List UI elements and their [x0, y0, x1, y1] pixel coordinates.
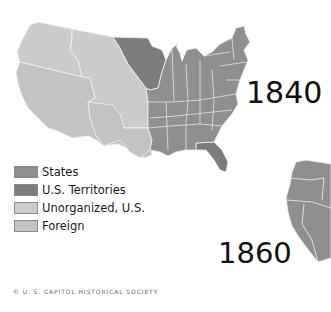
legend-item-foreign: Foreign [14, 217, 145, 235]
legend-label: Unorganized, U.S. [42, 201, 145, 215]
map-1840 [16, 22, 250, 172]
swatch-territories [14, 184, 38, 196]
year-label-1840: 1840 [246, 75, 322, 110]
swatch-foreign [14, 220, 38, 232]
legend-item-unorganized: Unorganized, U.S. [14, 199, 145, 217]
year-label-1860: 1860 [218, 236, 292, 270]
region-west-states-1860 [286, 160, 331, 262]
swatch-states [14, 166, 38, 178]
swatch-unorganized [14, 202, 38, 214]
map-1860 [286, 160, 331, 262]
legend-label: Foreign [42, 219, 85, 233]
region-states [146, 26, 250, 156]
map-legend: States U.S. Territories Unorganized, U.S… [14, 163, 145, 235]
legend-item-states: States [14, 163, 145, 181]
legend-label: States [42, 165, 78, 179]
copyright-notice: © U. S. CAPITOL HISTORICAL SOCIETY [13, 288, 158, 295]
region-florida-territory [196, 142, 228, 172]
legend-item-territories: U.S. Territories [14, 181, 145, 199]
legend-label: U.S. Territories [42, 183, 126, 197]
